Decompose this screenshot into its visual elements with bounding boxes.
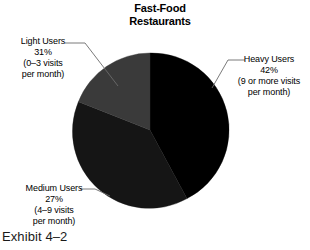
callout-medium-users-label: Medium Users xyxy=(14,183,94,194)
callout-light-users-label: Light Users xyxy=(4,36,82,47)
callout-light-users-percent: 31% xyxy=(4,47,82,58)
callout-medium-users-detail-2: per month) xyxy=(14,216,94,227)
callout-heavy-users: Heavy Users 42% (9 or more visits per mo… xyxy=(229,54,309,98)
callout-medium-users-detail-1: (4–9 visits xyxy=(14,205,94,216)
callout-medium-users: Medium Users 27% (4–9 visits per month) xyxy=(14,183,94,227)
callout-light-users-detail-2: per month) xyxy=(4,69,82,80)
exhibit-figure: Fast-Food Restaurants Light Users 31% (0… xyxy=(0,0,310,250)
callout-heavy-users-detail-1: (9 or more visits xyxy=(229,76,309,87)
callout-heavy-users-label: Heavy Users xyxy=(229,54,309,65)
callout-light-users-detail-1: (0–3 visits xyxy=(4,58,82,69)
callout-medium-users-percent: 27% xyxy=(14,194,94,205)
exhibit-caption: Exhibit 4–2 xyxy=(2,229,67,245)
callout-heavy-users-percent: 42% xyxy=(229,65,309,76)
callout-heavy-users-detail-2: per month) xyxy=(229,87,309,98)
callout-light-users: Light Users 31% (0–3 visits per month) xyxy=(4,36,82,80)
